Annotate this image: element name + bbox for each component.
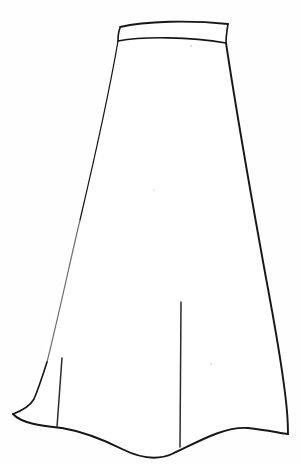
center-seam-line xyxy=(180,302,181,447)
paper-speck xyxy=(190,45,192,47)
skirt-body-fill xyxy=(13,41,288,458)
paper-speck xyxy=(153,189,155,191)
illustration-canvas xyxy=(0,0,301,465)
skirt-line-drawing xyxy=(0,0,301,465)
paper-speck xyxy=(210,363,212,365)
